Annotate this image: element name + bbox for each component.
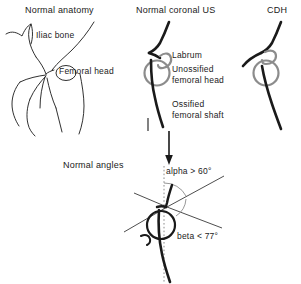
angles-bony-rim bbox=[157, 206, 166, 207]
label-ossified-femoral-shaft-line2: femoral shaft bbox=[172, 110, 224, 121]
acetabular-roof bbox=[46, 70, 54, 74]
upper-left-ray bbox=[134, 193, 167, 207]
label-alpha-angle: alpha > 60° bbox=[166, 166, 212, 177]
panel-title-normal-angles: Normal angles bbox=[63, 160, 124, 170]
label-beta-angle: beta < 77° bbox=[177, 231, 218, 242]
femoral-shaft-line bbox=[79, 74, 84, 134]
radiating-line-4 bbox=[47, 78, 56, 108]
cdh-drawing bbox=[243, 22, 281, 129]
label-unossified-femoral-head-line2: femoral head bbox=[172, 75, 224, 86]
panel-title-normal-anatomy: Normal anatomy bbox=[25, 5, 94, 15]
us-bony-rim bbox=[149, 53, 160, 58]
label-ossified-femoral-shaft-line1: Ossified bbox=[172, 99, 204, 110]
inferior-ramus-left bbox=[12, 82, 20, 126]
drawing-layer bbox=[0, 0, 301, 284]
cdh-iliac-bone bbox=[261, 22, 281, 53]
angles-cartilage-hook bbox=[141, 235, 150, 245]
femoral-neck-line bbox=[56, 108, 62, 132]
hip-ultrasound-figure: Normal anatomy Normal coronal US CDH Ili… bbox=[0, 0, 301, 284]
us-unossified-femoral-head bbox=[145, 61, 170, 86]
label-unossified-femoral-head-line1: Unossified bbox=[172, 64, 214, 75]
alpha-acetabular-roof-ray bbox=[167, 176, 224, 207]
inferior-ramus-middle bbox=[27, 99, 35, 136]
angles-femoral-head bbox=[147, 211, 175, 239]
label-iliac-bone: Iliac bone bbox=[36, 30, 74, 41]
panel-title-normal-coronal-us: Normal coronal US bbox=[136, 5, 215, 15]
arrow-head bbox=[165, 155, 173, 165]
angles-iliac-bone bbox=[166, 185, 172, 207]
normal-angles-drawing bbox=[124, 166, 224, 282]
alpha-angle-arc bbox=[164, 183, 186, 196]
radiating-line-1 bbox=[20, 75, 46, 82]
label-femoral-head: Femoral head bbox=[59, 66, 114, 77]
us-iliac-bone bbox=[149, 22, 169, 53]
panel-title-cdh: CDH bbox=[267, 5, 287, 15]
normal-coronal-us-drawing bbox=[145, 22, 172, 131]
label-labrum: Labrum bbox=[172, 50, 202, 61]
down-arrow-from-us-to-angles bbox=[165, 131, 173, 165]
radiating-line-2 bbox=[30, 76, 46, 99]
iliac-body-line bbox=[36, 57, 46, 74]
us-ossified-femoral-shaft bbox=[151, 60, 163, 127]
